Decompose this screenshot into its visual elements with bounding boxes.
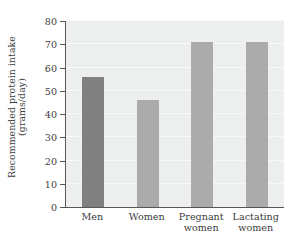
y-axis-tick-label: 0 bbox=[51, 202, 57, 213]
bar-chart-figure: Recommended protein intake (grams/day) 0… bbox=[0, 0, 295, 250]
x-axis-tick-label: Women bbox=[120, 211, 175, 222]
y-axis-tick-label: 50 bbox=[45, 85, 57, 96]
x-axis-tick-label: Lactatingwomen bbox=[229, 211, 284, 234]
y-axis-tick-label: 10 bbox=[45, 178, 57, 189]
x-axis-tick-label-line: women bbox=[174, 222, 229, 233]
y-axis-tick-mark bbox=[60, 161, 65, 162]
y-axis-tick-mark bbox=[60, 184, 65, 185]
x-axis-tick-label-line: Lactating bbox=[229, 211, 284, 222]
x-axis-tick-label-line: women bbox=[229, 222, 284, 233]
y-axis-tick-label: 40 bbox=[45, 109, 57, 120]
y-axis-tick-mark bbox=[60, 207, 65, 208]
y-axis-tick-mark bbox=[60, 44, 65, 45]
y-axis-tick-mark bbox=[60, 68, 65, 69]
bar bbox=[246, 42, 268, 207]
y-axis-tick-mark bbox=[60, 21, 65, 22]
bar bbox=[191, 42, 213, 207]
y-axis-tick-label: 80 bbox=[45, 16, 57, 27]
y-axis-tick-label: 20 bbox=[45, 155, 57, 166]
y-axis-tick-mark bbox=[60, 91, 65, 92]
y-axis-title: Recommended protein intake (grams/day) bbox=[0, 0, 34, 214]
y-axis-tick-label: 70 bbox=[45, 39, 57, 50]
x-axis-tick-label-line: Men bbox=[65, 211, 120, 222]
gridline bbox=[66, 20, 284, 21]
y-axis-tick-mark bbox=[60, 137, 65, 138]
bar bbox=[82, 77, 104, 207]
x-axis-tick-label-line: Pregnant bbox=[174, 211, 229, 222]
x-axis-tick-label: Pregnantwomen bbox=[174, 211, 229, 234]
y-axis-tick-label: 60 bbox=[45, 62, 57, 73]
bar bbox=[137, 100, 159, 207]
x-axis-tick-label: Men bbox=[65, 211, 120, 222]
y-axis-tick-label: 30 bbox=[45, 132, 57, 143]
y-axis-tick-mark bbox=[60, 114, 65, 115]
x-axis-tick-label-line: Women bbox=[120, 211, 175, 222]
y-axis-title-line-2: (grams/day) bbox=[17, 78, 27, 136]
plot-area: 01020304050607080 bbox=[65, 21, 284, 208]
